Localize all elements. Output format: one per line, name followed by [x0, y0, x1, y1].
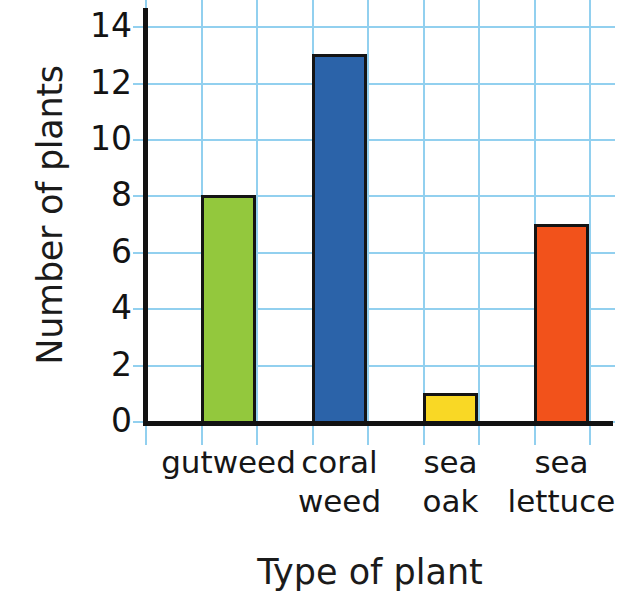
plot-area [145, 10, 615, 423]
y-tick-label: 6 [86, 235, 132, 268]
y-tick-label: 2 [86, 348, 132, 381]
gridline-horizontal [133, 139, 615, 141]
gridline-vertical [367, 0, 369, 445]
x-tick-label-3: sea lettuce [477, 443, 632, 521]
gridline-horizontal [133, 26, 615, 28]
y-tick-label: 8 [86, 178, 132, 211]
y-axis-line [143, 8, 148, 426]
bar-chart: Number of plants 02468101214 gutweedcora… [0, 0, 632, 607]
y-tick-label: 10 [86, 122, 132, 155]
y-tick-label: 0 [86, 404, 132, 437]
y-tick-label: 12 [86, 66, 132, 99]
gridline-horizontal [133, 83, 615, 85]
x-axis-title: Type of plant [150, 552, 590, 592]
gridline-vertical [256, 0, 258, 445]
y-tick-label: 4 [86, 291, 132, 324]
y-tick-label: 14 [86, 9, 132, 42]
y-axis-title: Number of plants [30, 5, 70, 425]
x-axis-line [143, 421, 613, 426]
bar-2 [423, 393, 478, 424]
gridline-vertical [589, 0, 591, 445]
bar-0 [201, 195, 256, 424]
bar-1 [312, 54, 367, 424]
gridline-vertical [478, 0, 480, 445]
gridline-vertical [423, 0, 425, 445]
bar-3 [534, 224, 589, 424]
